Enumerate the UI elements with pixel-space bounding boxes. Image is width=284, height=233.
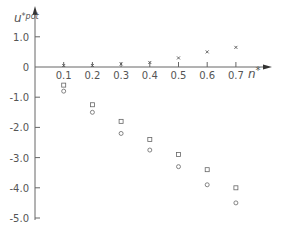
square-marker xyxy=(90,103,94,107)
cross-marker xyxy=(177,56,180,59)
y-tick-label: -4.0 xyxy=(9,183,29,194)
x-tick-label: 0.4 xyxy=(142,70,158,81)
square-marker xyxy=(177,153,181,157)
x-axis-label: n* xyxy=(248,65,261,81)
cross-marker xyxy=(234,46,237,49)
y-axis-label: u*pot xyxy=(14,11,40,25)
y-tick-label: -3.0 xyxy=(9,153,29,164)
square-marker xyxy=(234,186,238,190)
square-marker xyxy=(148,137,152,141)
y-tick-label: -1.0 xyxy=(9,92,29,103)
y-tick-label: -2.0 xyxy=(9,122,29,133)
circle-marker xyxy=(234,201,238,205)
cross-marker xyxy=(206,50,209,53)
scatter-chart: 1.00-1.0-2.0-3.0-4.0-5.00.10.20.30.40.50… xyxy=(0,0,284,233)
y-tick-label: 0 xyxy=(23,62,29,73)
y-tick-label: 1.0 xyxy=(13,32,29,43)
circle-marker xyxy=(90,110,94,114)
square-marker xyxy=(119,119,123,123)
circle-marker xyxy=(62,89,66,93)
x-axis-arrow-icon xyxy=(263,65,272,70)
y-tick-label: -5.0 xyxy=(9,213,29,224)
x-tick-label: 0.2 xyxy=(84,70,100,81)
square-marker xyxy=(62,83,66,87)
square-marker xyxy=(205,168,209,172)
circle-marker xyxy=(148,148,152,152)
x-tick-label: 0.5 xyxy=(171,70,187,81)
axes: 1.00-1.0-2.0-3.0-4.0-5.00.10.20.30.40.50… xyxy=(9,6,272,224)
circle-marker xyxy=(205,183,209,187)
x-tick-label: 0.3 xyxy=(113,70,129,81)
circle-marker xyxy=(177,165,181,169)
x-tick-label: 0.7 xyxy=(228,70,244,81)
x-tick-label: 0.6 xyxy=(199,70,215,81)
circle-marker xyxy=(119,131,123,135)
x-tick-label: 0.1 xyxy=(56,70,72,81)
